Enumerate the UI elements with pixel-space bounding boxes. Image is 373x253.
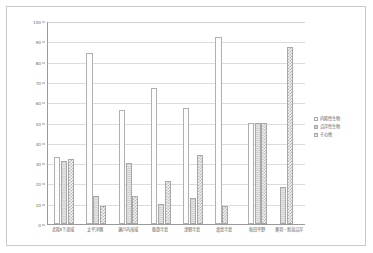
legend-label: その他 [320, 132, 332, 137]
legend-swatch-icon [314, 133, 318, 137]
bar [248, 123, 254, 225]
bar [255, 123, 261, 225]
y-tick-label: 40 [36, 141, 41, 146]
y-tick-mark [42, 204, 45, 205]
legend-swatch-icon [314, 117, 318, 121]
bar [287, 47, 293, 224]
plot-area [47, 22, 305, 225]
legend: 内陸性生物沿岸性生物その他 [314, 115, 366, 139]
x-tick-label: 瀬戸内海域 [118, 227, 138, 233]
bar [119, 110, 125, 224]
y-tick-mark [42, 22, 45, 23]
bar [93, 196, 99, 224]
x-tick-label: 渡島半島 [216, 227, 232, 233]
bar-group [215, 22, 235, 224]
bar-group [119, 22, 139, 224]
bar-group [280, 22, 300, 224]
x-tick-label: 秋田平野 [249, 227, 265, 233]
bar [190, 198, 196, 224]
x-tick-label: 北陸Ⅱ下流域 [52, 227, 74, 233]
y-axis: 0102030405060708090100 [0, 22, 45, 225]
y-tick-mark [42, 62, 45, 63]
x-tick-label: 奥羽・新潟沿岸 [275, 227, 303, 233]
y-tick-label: 0 [38, 223, 41, 228]
bar-group [183, 22, 203, 224]
bar [151, 88, 157, 224]
y-tick-mark [42, 123, 45, 124]
y-tick-mark [42, 184, 45, 185]
legend-item[interactable]: その他 [314, 131, 366, 138]
legend-item[interactable]: 内陸性生物 [314, 115, 366, 122]
x-tick-label: 能登半島 [152, 227, 168, 233]
x-tick-label: 津軽半島 [184, 227, 200, 233]
y-tick-label: 30 [36, 162, 41, 167]
bar [68, 159, 74, 224]
legend-item[interactable]: 沿岸性生物 [314, 123, 366, 130]
y-tick-label: 50 [36, 121, 41, 126]
y-tick-mark [42, 225, 45, 226]
bar-groups [48, 22, 305, 224]
x-axis-labels: 北陸Ⅱ下流域太平洋側瀬戸内海域能登半島津軽半島渡島半島秋田平野奥羽・新潟沿岸 [47, 227, 305, 241]
legend-label: 沿岸性生物 [320, 124, 340, 129]
y-tick-label: 100 [33, 20, 41, 25]
bar [61, 161, 67, 224]
bar [86, 53, 92, 224]
y-tick-label: 60 [36, 101, 41, 106]
x-tick-label: 太平洋側 [87, 227, 103, 233]
y-tick-label: 90 [36, 40, 41, 45]
y-tick-mark [42, 82, 45, 83]
bar-group [248, 22, 268, 224]
y-tick-label: 10 [36, 202, 41, 207]
bar [54, 157, 60, 224]
bar-group [151, 22, 171, 224]
y-tick-mark [42, 103, 45, 104]
bar [261, 123, 267, 225]
y-tick-mark [42, 42, 45, 43]
bar [215, 37, 221, 224]
bar [158, 204, 164, 224]
bar [165, 181, 171, 224]
legend-swatch-icon [314, 125, 318, 129]
bar [197, 155, 203, 224]
chart-screenshot: 0102030405060708090100 北陸Ⅱ下流域太平洋側瀬戸内海域能登… [0, 0, 373, 253]
bar [183, 108, 189, 224]
bar-group [86, 22, 106, 224]
bar-group [54, 22, 74, 224]
y-tick-mark [42, 143, 45, 144]
bar [100, 206, 106, 224]
bar [280, 187, 286, 224]
bar [222, 206, 228, 224]
bar [132, 196, 138, 224]
y-tick-mark [42, 164, 45, 165]
y-tick-label: 80 [36, 60, 41, 65]
bar [126, 163, 132, 224]
y-tick-label: 70 [36, 80, 41, 85]
y-tick-label: 20 [36, 182, 41, 187]
legend-label: 内陸性生物 [320, 116, 340, 121]
